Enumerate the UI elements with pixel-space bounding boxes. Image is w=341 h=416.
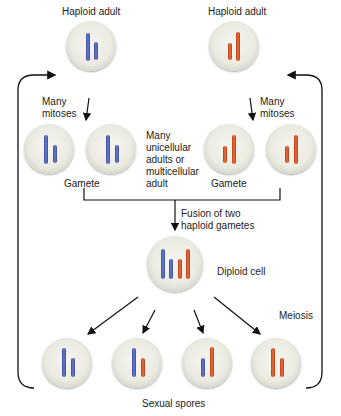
chromosome-blue-short	[71, 358, 75, 377]
chromosome-blue-short	[94, 42, 98, 60]
chromosome-orange-short	[228, 43, 232, 60]
label-many-mitoses-right: Many mitoses	[260, 96, 294, 120]
chromosome-orange-long	[271, 348, 275, 377]
label-many-mitoses-left: Many mitoses	[42, 96, 76, 120]
chromosome-blue-long	[106, 135, 110, 164]
gamete-a-2-cell	[86, 124, 136, 174]
label-meiosis: Meiosis	[279, 310, 313, 322]
chromosome-blue-long	[86, 33, 90, 61]
gamete-b-1-cell	[204, 124, 254, 174]
chromosome-orange-long	[210, 347, 214, 377]
gamete-a-1-cell	[24, 124, 74, 174]
chromosome-orange-short	[141, 358, 145, 377]
label-gamete-left: Gamete	[64, 178, 100, 190]
chromosome-blue-long	[44, 135, 48, 164]
label-many-adults: Many unicellular adults or multicellular…	[146, 130, 199, 190]
label-haploid-adult-right: Haploid adult	[208, 6, 266, 18]
chromosome-orange-long	[232, 135, 236, 164]
chromosome-orange-short	[280, 358, 284, 377]
chromosome-blue-short	[53, 145, 57, 163]
chromosome-orange-short	[178, 259, 182, 279]
haploid-adult-b-cell	[209, 21, 259, 71]
label-fusion: Fusion of two haploid gametes	[181, 208, 254, 232]
chromosome-blue-short	[115, 145, 119, 163]
chromosome-blue-short	[201, 358, 205, 377]
label-sexual-spores: Sexual spores	[142, 398, 205, 410]
haploid-adult-a-cell	[66, 21, 116, 71]
gamete-b-2-cell	[266, 124, 316, 174]
label-haploid-adult-left: Haploid adult	[62, 6, 120, 18]
chromosome-blue-long	[62, 348, 66, 377]
chromosome-orange-long	[294, 135, 298, 164]
chromosome-blue-short	[169, 259, 173, 279]
chromosome-orange-short	[285, 146, 289, 163]
spore-1-cell	[42, 338, 92, 388]
spore-3-cell	[182, 338, 232, 388]
spore-2-cell	[112, 338, 162, 388]
spore-4-cell	[251, 338, 301, 388]
diploid-cell	[147, 236, 203, 292]
chromosome-orange-long	[236, 32, 240, 61]
chromosome-orange-short	[223, 146, 227, 163]
label-gamete-right: Gamete	[211, 178, 247, 190]
chromosome-orange-long	[186, 249, 190, 279]
chromosome-blue-long	[161, 249, 165, 279]
label-diploid-cell: Diploid cell	[217, 266, 265, 278]
chromosome-blue-long	[132, 348, 136, 377]
